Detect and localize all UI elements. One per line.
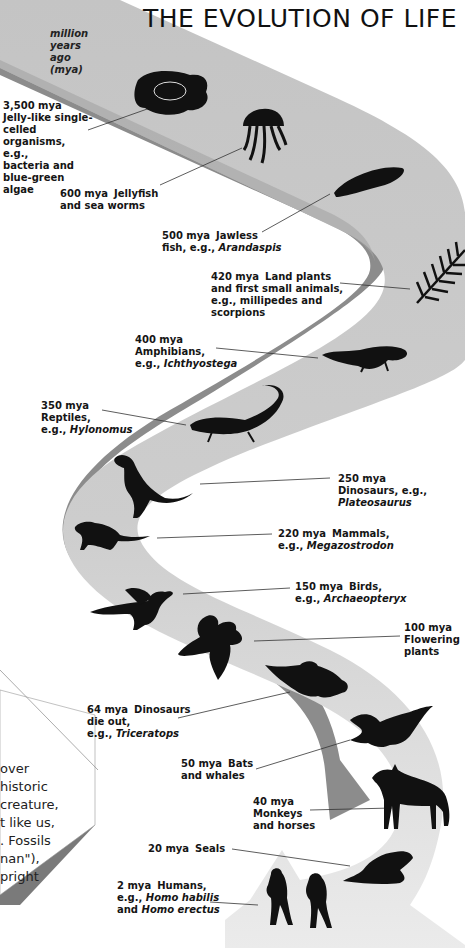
event-text: e.g., [117, 892, 146, 903]
event-mya: 400 mya [135, 334, 237, 346]
card-line: nan"), [0, 850, 180, 868]
event-text: Jawless [216, 230, 258, 241]
event-label-220: 220 myaMammals, e.g., Megazostrodon [278, 528, 394, 552]
event-label-64: 64 myaDinosaurs die out, e.g., Tricerato… [87, 704, 191, 740]
card-line: t like us, [0, 814, 180, 832]
event-text: organisms, e.g., [3, 136, 93, 160]
event-mya: 50 mya [181, 758, 222, 769]
event-text: celled [3, 124, 93, 136]
unit-line: million [50, 28, 110, 40]
event-text: blue-green [3, 172, 93, 184]
event-mya: 40 mya [253, 796, 315, 808]
event-example: Homo habilis [146, 892, 219, 903]
event-text: and sea worms [60, 200, 158, 212]
event-example: Plateosaurus [338, 497, 412, 508]
event-label-500: 500 myaJawless fish, e.g., Arandaspis [162, 230, 282, 254]
event-text: Flowering [404, 634, 460, 646]
event-label-50: 50 myaBats and whales [181, 758, 253, 782]
event-label-400: 400 mya Amphibians, e.g., Ichthyostega [135, 334, 237, 370]
event-text: bacteria and [3, 160, 93, 172]
event-text: plants [404, 646, 460, 658]
event-example: Homo erectus [142, 904, 220, 915]
event-text: e.g., millipedes and [211, 295, 343, 307]
event-label-150: 150 myaBirds, e.g., Archaeopteryx [295, 581, 407, 605]
unit-line: ago [50, 52, 110, 64]
event-label-350: 350 mya Reptiles, e.g., Hylonomus [41, 400, 133, 436]
event-text: Dinosaurs [134, 704, 190, 715]
info-card-text: over historic creature, t like us, . Fos… [0, 760, 180, 886]
event-text: Amphibians, [135, 346, 237, 358]
event-text: and whales [181, 770, 253, 782]
event-label-250: 250 mya Dinosaurs, e.g., Plateosaurus [338, 473, 427, 509]
event-text: die out, [87, 716, 191, 728]
event-mya: 500 mya [162, 230, 210, 241]
event-label-40: 40 mya Monkeys and horses [253, 796, 315, 832]
event-text: Mammals, [332, 528, 389, 539]
event-label-100: 100 mya Flowering plants [404, 622, 460, 658]
event-text: e.g., [87, 728, 116, 739]
event-text: scorpions [211, 307, 343, 319]
event-text: e.g., [278, 540, 307, 551]
cell-icon [134, 71, 207, 115]
event-mya: 64 mya [87, 704, 128, 715]
event-text: Bats [228, 758, 253, 769]
event-mya: 350 mya [41, 400, 133, 412]
event-text: Birds, [349, 581, 382, 592]
event-example: Megazostrodon [307, 540, 394, 551]
unit-line: years [50, 40, 110, 52]
event-example: Hylonomus [70, 424, 133, 435]
event-text: and first small animals, [211, 283, 343, 295]
event-text: Dinosaurs, e.g., [338, 485, 427, 497]
event-mya: 100 mya [404, 622, 460, 634]
card-line: creature, [0, 796, 180, 814]
event-label-420: 420 myaLand plants and first small anima… [211, 271, 343, 319]
card-line: . Fossils [0, 832, 180, 850]
event-text: e.g., [135, 358, 164, 369]
event-label-600: 600 myaJellyfish and sea worms [60, 188, 158, 212]
diagram-title: THE EVOLUTION OF LIFE [135, 4, 465, 33]
event-text: fish, e.g., [162, 242, 219, 253]
event-text: e.g., [41, 424, 70, 435]
event-mya: 420 mya [211, 271, 259, 282]
event-mya: 3,500 mya [3, 100, 93, 112]
event-text: Land plants [265, 271, 331, 282]
unit-label: million years ago (mya) [50, 28, 110, 76]
event-text: Monkeys [253, 808, 315, 820]
card-line: historic [0, 778, 180, 796]
event-mya: 250 mya [338, 473, 427, 485]
event-example: Triceratops [116, 728, 179, 739]
event-text: Reptiles, [41, 412, 133, 424]
event-mya: 150 mya [295, 581, 343, 592]
event-text: Jelly-like single- [3, 112, 93, 124]
event-text: and horses [253, 820, 315, 832]
card-line: over [0, 760, 180, 778]
event-mya: 220 mya [278, 528, 326, 539]
unit-line: (mya) [50, 64, 110, 76]
event-label-3500: 3,500 mya Jelly-like single- celled orga… [3, 100, 93, 196]
event-text: Jellyfish [114, 188, 158, 199]
event-text: Seals [195, 843, 225, 854]
card-line: pright [0, 868, 180, 886]
event-text: e.g., [295, 593, 324, 604]
event-example: Archaeopteryx [324, 593, 407, 604]
event-mya: 600 mya [60, 188, 108, 199]
event-text: and [117, 904, 142, 915]
event-example: Arandaspis [219, 242, 282, 253]
event-example: Ichthyostega [164, 358, 237, 369]
